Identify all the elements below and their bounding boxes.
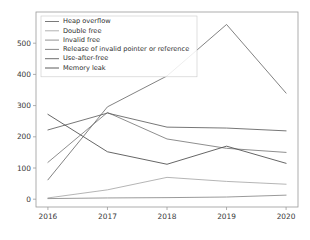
x-tick-label: 2020: [277, 212, 296, 221]
x-tick-label: 2017: [98, 212, 117, 221]
y-tick-label: 200: [17, 132, 31, 141]
legend-label-3: Release of invalid pointer or reference: [63, 45, 189, 53]
legend-label-0: Heap overflow: [63, 17, 111, 25]
x-tick-label: 2016: [39, 212, 58, 221]
x-tick-label: 2019: [217, 212, 236, 221]
y-tick-label: 500: [17, 39, 31, 48]
y-tick-label: 300: [17, 101, 31, 110]
legend-label-2: Invalid free: [63, 36, 100, 44]
y-tick-label: 0: [26, 195, 31, 204]
y-tick-label: 400: [17, 70, 31, 79]
chart-legend: Heap overflowDouble freeInvalid freeRele…: [41, 16, 197, 77]
x-tick-label: 2018: [158, 212, 177, 221]
chart-figure: 0100200300400500 20162017201820192020 He…: [0, 0, 310, 240]
y-tick-label: 100: [17, 164, 31, 173]
legend-label-5: Memory leak: [63, 64, 106, 72]
line-chart: 0100200300400500 20162017201820192020 He…: [0, 0, 310, 240]
legend-label-1: Double free: [63, 27, 101, 35]
x-axis-ticks: 20162017201820192020: [39, 207, 296, 221]
legend-label-4: Use-after-free: [63, 54, 108, 62]
y-axis-ticks: 0100200300400500: [17, 39, 36, 204]
